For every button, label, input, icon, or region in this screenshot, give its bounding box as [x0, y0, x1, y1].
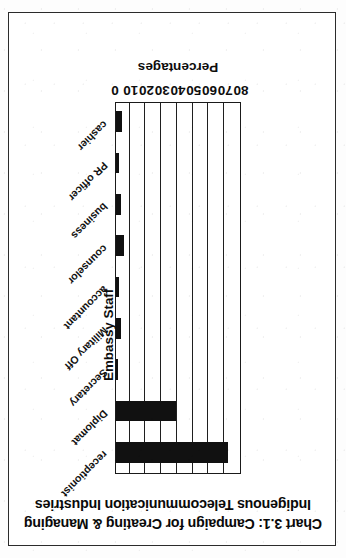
x-axis-category-label: counselor: [66, 242, 110, 286]
scanned-page: Chart 3.1: Campaign for Creating & Manag…: [0, 0, 346, 558]
x-axis-category-label: receptionist: [59, 449, 110, 500]
x-axis-category-label: Diplomat: [70, 408, 111, 449]
figure-frame: Chart 3.1: Campaign for Creating & Manag…: [8, 12, 336, 546]
x-axis-category-labels: cashierPR officerbusinesscounseloraccoun…: [9, 13, 337, 547]
x-axis-title: Embassy Staff: [101, 289, 116, 381]
x-axis-category-label: business: [69, 201, 110, 242]
x-axis-category-label: PR officer: [66, 160, 110, 204]
x-axis-category-label: cashier: [76, 118, 111, 153]
rotated-figure-content: Chart 3.1: Campaign for Creating & Manag…: [9, 13, 337, 547]
